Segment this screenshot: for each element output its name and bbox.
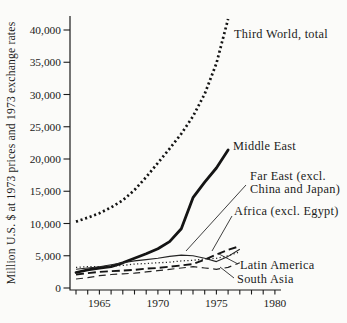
y-tick-label: 25,000 <box>30 121 62 133</box>
series-label-third-world-total: Third World, total <box>234 27 328 41</box>
y-tick-label: 20,000 <box>30 153 62 165</box>
x-tick-label: 1980 <box>264 297 287 309</box>
y-tick-label: 30,000 <box>30 89 62 101</box>
series-label-far-east-excl-china-and-japan: Far East (excl.China and Japan) <box>250 169 340 196</box>
military-expenditure-chart-figure: Million U.S. $ at 1973 prices and 1973 e… <box>0 0 347 323</box>
y-tick-label: 15,000 <box>30 185 62 197</box>
callout-south-asia <box>220 267 234 278</box>
y-tick-label: 40,000 <box>30 24 62 36</box>
y-tick-label: 5,000 <box>35 250 61 262</box>
y-tick-label: 10,000 <box>30 218 62 230</box>
series-label-africa-excl-egypt: Africa (excl. Egypt) <box>234 204 339 218</box>
y-tick-label: 0 <box>55 282 61 294</box>
series-line-middle-east <box>76 150 228 273</box>
series-line-far-east-excl-china-and-japan <box>76 249 240 269</box>
axes <box>70 16 281 290</box>
series-label-south-asia: South Asia <box>237 272 294 286</box>
series-line-latin-america <box>76 252 240 268</box>
x-tick-label: 1975 <box>205 297 228 309</box>
x-tick-label: 1970 <box>147 297 170 309</box>
series-label-latin-america: Latin America <box>240 258 315 272</box>
y-tick-label: 35,000 <box>30 56 62 68</box>
series-line-third-world-total <box>76 19 228 222</box>
series-label-middle-east: Middle East <box>233 139 296 153</box>
x-tick-label: 1965 <box>88 297 111 309</box>
line-chart: Million U.S. $ at 1973 prices and 1973 e… <box>0 0 347 323</box>
y-axis-title: Million U.S. $ at 1973 prices and 1973 e… <box>5 21 18 284</box>
callout-africa-excl-egypt <box>212 216 232 251</box>
